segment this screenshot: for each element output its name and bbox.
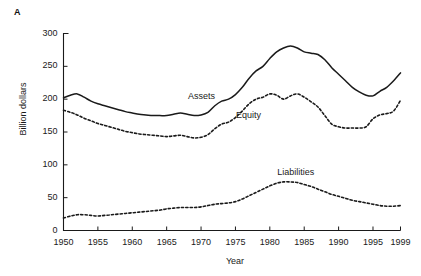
y-tick-label: 150	[28, 126, 58, 136]
figure-panel-a: A Billion dollars Year 05010015020025030…	[0, 0, 421, 276]
series-label-equity: Equity	[236, 110, 261, 120]
x-tick-label: 1990	[324, 237, 354, 247]
chart-tick-marks	[64, 34, 401, 231]
x-tick-label: 1985	[289, 237, 319, 247]
y-axis-title: Billion dollars	[18, 64, 28, 154]
y-tick-label: 200	[28, 93, 58, 103]
series-line-equity	[64, 94, 401, 138]
y-tick-label: 300	[28, 28, 58, 38]
x-axis-title: Year	[160, 256, 310, 266]
chart-plot-area	[0, 0, 421, 276]
x-tick-label: 1975	[220, 237, 250, 247]
x-tick-label: 1965	[152, 237, 182, 247]
y-tick-label: 250	[28, 60, 58, 70]
y-tick-label: 50	[28, 192, 58, 202]
x-tick-label: 1999	[386, 237, 416, 247]
y-tick-label: 0	[28, 225, 58, 235]
series-label-assets: Assets	[188, 91, 215, 101]
series-line-assets	[64, 46, 401, 116]
x-tick-label: 1950	[49, 237, 79, 247]
y-tick-label: 100	[28, 159, 58, 169]
x-tick-label: 1960	[117, 237, 147, 247]
chart-axes	[64, 34, 401, 231]
x-tick-label: 1995	[358, 237, 388, 247]
x-tick-label: 1970	[186, 237, 216, 247]
x-tick-label: 1980	[255, 237, 285, 247]
series-line-liabilities	[64, 182, 401, 218]
series-label-liabilities: Liabilities	[277, 167, 314, 177]
x-tick-label: 1955	[83, 237, 113, 247]
